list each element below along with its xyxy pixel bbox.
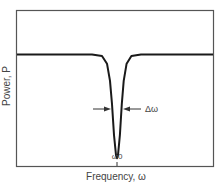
x-tick-label: ω0 — [112, 152, 123, 161]
dip-width-label: Δω — [145, 104, 158, 114]
width-arrow-left — [93, 107, 111, 112]
width-arrow-right — [123, 107, 141, 112]
power-curve — [17, 54, 213, 158]
chart: Δω ω0 Frequency, ω Power, P — [0, 0, 222, 184]
y-axis-label: Power, P — [1, 66, 12, 106]
x-axis-label: Frequency, ω — [86, 171, 146, 182]
